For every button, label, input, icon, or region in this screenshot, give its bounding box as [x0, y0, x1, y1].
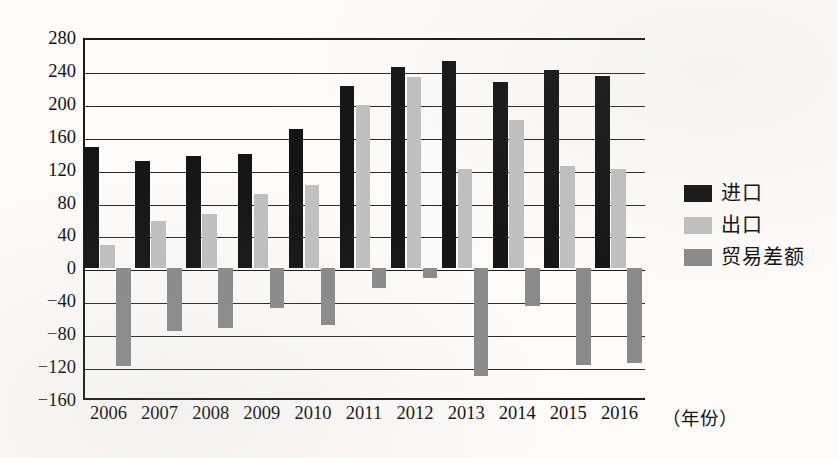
x-axis-title: （年份） [662, 404, 738, 430]
bar-balance [627, 268, 642, 363]
x-axis-tick-label: 2015 [543, 404, 594, 423]
bar-group [287, 38, 338, 400]
y-axis-tick-label: 200 [6, 95, 76, 114]
bar-balance [576, 268, 591, 365]
bar-export [458, 169, 473, 269]
bar-export [611, 169, 626, 269]
bar-import [391, 67, 406, 269]
bar-import [493, 82, 508, 268]
import-swatch [684, 185, 712, 202]
bar-group [83, 38, 134, 400]
bar-balance [525, 268, 540, 306]
bar-import [135, 161, 150, 269]
bar-export [202, 214, 217, 268]
y-axis-tick-label: 240 [6, 62, 76, 81]
chart-legend: 进口出口贸易差额 [684, 178, 834, 274]
legend-label: 进口 [721, 183, 763, 203]
x-axis-tick-label: 2006 [83, 404, 134, 423]
x-axis-tick-label: 2008 [185, 404, 236, 423]
bar-group [236, 38, 287, 400]
x-axis-tick-label: 2012 [390, 404, 441, 423]
legend-item: 贸易差额 [684, 242, 834, 272]
y-axis-tick-label: −80 [6, 325, 76, 344]
bar-export [407, 77, 422, 269]
x-axis-tick-label: 2011 [338, 404, 389, 423]
legend-label: 出口 [721, 215, 763, 235]
legend-item: 出口 [684, 210, 834, 240]
bar-import [238, 154, 253, 268]
bar-import [595, 76, 610, 269]
x-axis-tick-label: 2014 [492, 404, 543, 423]
x-axis-tick-label: 2013 [441, 404, 492, 423]
bar-group [543, 38, 594, 400]
bar-import [544, 70, 559, 268]
x-axis-tick-label: 2007 [134, 404, 185, 423]
bar-import [84, 147, 99, 269]
balance-swatch [684, 249, 712, 266]
y-axis-tick-label: −120 [6, 358, 76, 377]
y-axis-tick-label: 0 [6, 259, 76, 278]
bar-balance [372, 268, 387, 288]
bar-balance [423, 268, 438, 278]
y-axis-tick-label: 280 [6, 29, 76, 48]
bar-group [492, 38, 543, 400]
bar-group [134, 38, 185, 400]
export-swatch [684, 217, 712, 234]
bar-group [441, 38, 492, 400]
legend-item: 进口 [684, 178, 834, 208]
bar-export [100, 245, 115, 269]
bar-balance [474, 268, 489, 376]
bar-balance [270, 268, 285, 307]
bar-import [442, 61, 457, 268]
bar-export [356, 105, 371, 268]
x-axis-tick-label: 2016 [594, 404, 645, 423]
bar-export [560, 166, 575, 269]
y-axis: 28024020016012080400−40−80−120−160 [0, 0, 76, 458]
bar-group [185, 38, 236, 400]
y-axis-tick-label: 80 [6, 193, 76, 212]
bar-groups [83, 38, 645, 400]
bar-export [151, 221, 166, 268]
bar-group [338, 38, 389, 400]
bar-export [509, 120, 524, 268]
bar-export [305, 185, 320, 268]
y-axis-tick-label: 40 [6, 226, 76, 245]
y-axis-tick-label: 120 [6, 160, 76, 179]
bar-balance [167, 268, 182, 331]
bar-import [340, 86, 355, 269]
legend-label: 贸易差额 [721, 247, 805, 267]
bar-group [390, 38, 441, 400]
y-axis-tick-label: −40 [6, 292, 76, 311]
bar-chart: 28024020016012080400−40−80−120−160 20062… [0, 0, 837, 458]
bar-balance [321, 268, 336, 325]
x-axis-tick-label: 2009 [236, 404, 287, 423]
bar-import [289, 129, 304, 269]
x-axis-tick-label: 2010 [287, 404, 338, 423]
bar-balance [116, 268, 131, 366]
bar-balance [218, 268, 233, 328]
y-axis-tick-label: −160 [6, 391, 76, 410]
bar-group [594, 38, 645, 400]
bar-import [186, 156, 201, 269]
y-axis-tick-label: 160 [6, 127, 76, 146]
bar-export [254, 194, 269, 268]
